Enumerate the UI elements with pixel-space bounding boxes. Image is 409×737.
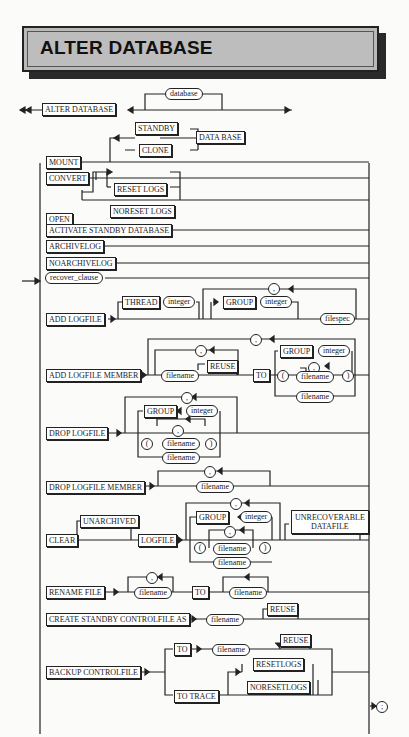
keyword-drop-logfile: DROP LOGFILE — [46, 427, 108, 440]
variable-filename: filename — [196, 481, 234, 493]
keyword-to-trace: TO TRACE — [174, 690, 219, 703]
variable-filespec: filespec — [320, 313, 355, 325]
keyword-unarchived: UNARCHIVED — [80, 515, 139, 528]
keyword-create-standby-controlfile-as: CREATE STANDBY CONTROLFILE AS — [46, 613, 190, 626]
symbol-right-paren: ) — [205, 438, 217, 450]
variable-filename: filename — [206, 614, 244, 626]
variable-filename: filename — [229, 587, 267, 599]
symbol-comma: , — [204, 466, 216, 478]
variable-filename: filename — [213, 557, 251, 569]
keyword-reuse: REUSE — [280, 634, 311, 647]
keyword-backup-controlfile: BACKUP CONTROLFILE — [46, 666, 141, 679]
symbol-comma: , — [146, 572, 158, 584]
keyword-to: TO — [253, 369, 270, 382]
symbol-comma: , — [230, 498, 242, 510]
keyword-unrecoverable-datafile: UNRECOVERABLEDATAFILE — [291, 510, 369, 534]
keyword-add-logfile-member: ADD LOGFILE MEMBER — [46, 369, 141, 382]
keyword-to: TO — [192, 586, 209, 599]
symbol-comma: , — [250, 334, 262, 346]
symbol-comma: , — [181, 392, 193, 404]
variable-integer: integer — [240, 511, 272, 523]
keyword-to: TO — [174, 643, 191, 656]
keyword-group: GROUP — [144, 405, 177, 418]
symbol-comma: , — [172, 425, 184, 437]
symbol-left-paren: ( — [194, 542, 206, 554]
keyword-noresetlogs: NORESETLOGS — [247, 681, 310, 694]
keyword-reuse: REUSE — [267, 603, 298, 616]
symbol-comma: , — [268, 283, 280, 295]
keyword-reuse: REUSE — [207, 360, 238, 373]
variable-integer: integer — [163, 296, 195, 308]
keyword-data-base: DATA BASE — [196, 131, 245, 144]
variable-filename: filename — [213, 543, 251, 555]
variable-filename: filename — [296, 371, 334, 383]
keyword-convert: CONVERT — [46, 172, 89, 185]
keyword-logfile: LOGFILE — [138, 534, 177, 547]
variable-filename: filename — [134, 587, 172, 599]
keyword-reset-logs: RESET LOGS — [114, 183, 167, 196]
variable-recover-clause: recover_clause — [45, 272, 103, 284]
variable-integer: integer — [260, 296, 292, 308]
variable-filename: filename — [212, 644, 250, 656]
keyword-alter-database: ALTER DATABASE — [42, 103, 116, 116]
keyword-clear: CLEAR — [46, 534, 78, 547]
keyword-group: GROUP — [223, 296, 256, 309]
keyword-add-logfile: ADD LOGFILE — [46, 313, 105, 326]
variable-database: database — [165, 88, 203, 100]
symbol-right-paren: ) — [342, 370, 354, 382]
keyword-rename-file: RENAME FILE — [46, 586, 105, 599]
variable-integer: integer — [186, 405, 218, 417]
symbol-left-paren: ( — [277, 370, 289, 382]
end-semicolon-icon: ; — [376, 701, 388, 713]
keyword-clone: CLONE — [139, 144, 172, 157]
keyword-archivelog: ARCHIVELOG — [46, 240, 104, 253]
variable-integer: integer — [318, 345, 350, 357]
symbol-comma: , — [224, 526, 236, 538]
keyword-mount: MOUNT — [46, 156, 81, 169]
keyword-noarchivelog: NOARCHIVELOG — [46, 257, 116, 270]
variable-filename: filename — [162, 438, 200, 450]
symbol-left-paren: ( — [141, 438, 153, 450]
syntax-diagram-page: ALTER DATABASE — [0, 0, 409, 737]
keyword-unrecoverable: UNRECOVERABLE — [295, 513, 365, 522]
variable-filename: filename — [161, 370, 199, 382]
keyword-noreset-logs: NORESET LOGS — [110, 205, 175, 218]
symbol-right-paren: ) — [259, 542, 271, 554]
keyword-standby: STANDBY — [135, 122, 178, 135]
keyword-activate-standby-database: ACTIVATE STANDBY DATABASE — [46, 224, 172, 237]
keyword-group: GROUP — [280, 345, 313, 358]
keyword-resetlogs: RESETLOGS — [253, 658, 304, 671]
keyword-group: GROUP — [196, 511, 229, 524]
keyword-drop-logfile-member: DROP LOGFILE MEMBER — [46, 481, 145, 494]
symbol-comma: , — [195, 345, 207, 357]
keyword-thread: THREAD — [122, 296, 160, 309]
keyword-datafile: DATAFILE — [311, 522, 349, 531]
variable-filename: filename — [162, 452, 200, 464]
variable-filename: filename — [296, 391, 334, 403]
